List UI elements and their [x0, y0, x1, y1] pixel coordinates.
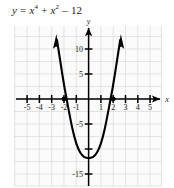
x-intercept-point-positive-2	[111, 97, 116, 102]
x-tick-label-5: 5	[148, 103, 152, 112]
y-tick-label-neg5: -5	[76, 120, 83, 129]
y-tick-label-10: 10	[75, 45, 83, 54]
x-intercept-point-negative-2	[62, 97, 67, 102]
x-tick-label-1: 1	[99, 103, 103, 112]
x-tick-label-neg2: -2	[61, 103, 68, 112]
x-axis-label: x	[164, 95, 169, 104]
y-tick-label-5: 5	[79, 70, 83, 79]
x-tick-label-neg5: -5	[24, 103, 31, 112]
x-tick-label-neg3: -3	[48, 103, 55, 112]
coordinate-plot: -5 -4 -3 -2 -1 1 2 3 4 5 10 5 -5 -15 x y	[0, 0, 174, 188]
x-tick-label-neg1: -1	[73, 103, 80, 112]
y-tick-label-neg15: -15	[72, 170, 83, 179]
graph-figure: y = x4 + x2 – 12	[0, 0, 174, 188]
x-tick-label-neg4: -4	[36, 103, 43, 112]
x-tick-label-3: 3	[124, 103, 128, 112]
y-axis-label: y	[86, 17, 91, 26]
x-tick-label-2: 2	[111, 103, 115, 112]
x-tick-label-4: 4	[136, 103, 140, 112]
